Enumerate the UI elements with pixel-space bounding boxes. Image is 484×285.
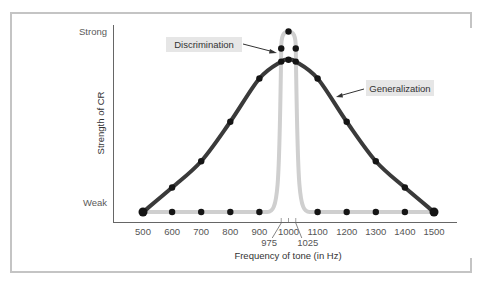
data-point bbox=[402, 209, 408, 215]
x-extra-tick-label: 975 bbox=[261, 237, 277, 248]
data-point bbox=[198, 158, 204, 164]
x-tick-label: 1100 bbox=[307, 226, 327, 237]
data-point bbox=[256, 209, 262, 215]
discrimination-annotation: Discrimination bbox=[166, 37, 277, 54]
x-tick-label: 1300 bbox=[365, 226, 386, 237]
x-tick-label: 900 bbox=[251, 226, 267, 237]
data-point bbox=[293, 45, 299, 51]
discrimination-arrow bbox=[243, 44, 274, 52]
data-point bbox=[278, 45, 284, 51]
data-point bbox=[256, 75, 262, 81]
data-point bbox=[373, 209, 379, 215]
discrimination-points bbox=[169, 28, 408, 215]
data-point bbox=[198, 209, 204, 215]
data-point bbox=[344, 119, 350, 125]
data-point bbox=[139, 208, 148, 217]
data-point bbox=[169, 184, 175, 190]
data-point bbox=[285, 57, 291, 63]
data-point bbox=[227, 119, 233, 125]
generalization-arrow bbox=[339, 89, 364, 96]
x-tick-label: 800 bbox=[222, 226, 238, 237]
x-axis-label: Frequency of tone (in Hz) bbox=[234, 250, 341, 261]
x-tick-label: 1500 bbox=[423, 226, 444, 237]
data-point bbox=[169, 209, 175, 215]
x-tick-label: 1200 bbox=[336, 226, 357, 237]
data-point bbox=[227, 209, 233, 215]
data-point bbox=[373, 158, 379, 164]
y-tick-strong: Strong bbox=[79, 26, 107, 37]
x-tick-label: 1400 bbox=[394, 226, 415, 237]
generalization-label: Generalization bbox=[369, 83, 430, 94]
data-point bbox=[402, 184, 408, 190]
stimulus-generalization-chart: Strong Weak Strength of CR 5006007008009… bbox=[0, 0, 484, 285]
y-tick-weak: Weak bbox=[83, 197, 107, 208]
generalization-annotation: Generalization bbox=[336, 80, 434, 98]
x-tick-label: 700 bbox=[193, 226, 209, 237]
x-tick-label: 500 bbox=[135, 226, 151, 237]
data-point bbox=[293, 58, 299, 64]
discrimination-label: Discrimination bbox=[174, 39, 234, 50]
x-tick-label: 600 bbox=[164, 226, 180, 237]
data-point bbox=[430, 208, 439, 217]
y-axis-label: Strength of CR bbox=[95, 91, 106, 154]
data-point bbox=[314, 75, 320, 81]
data-point bbox=[344, 209, 350, 215]
x-extra-tick-label: 1025 bbox=[297, 237, 318, 248]
data-point bbox=[314, 209, 320, 215]
data-point bbox=[285, 28, 291, 34]
x-tick-label: 1000 bbox=[278, 226, 299, 237]
data-point bbox=[278, 58, 284, 64]
